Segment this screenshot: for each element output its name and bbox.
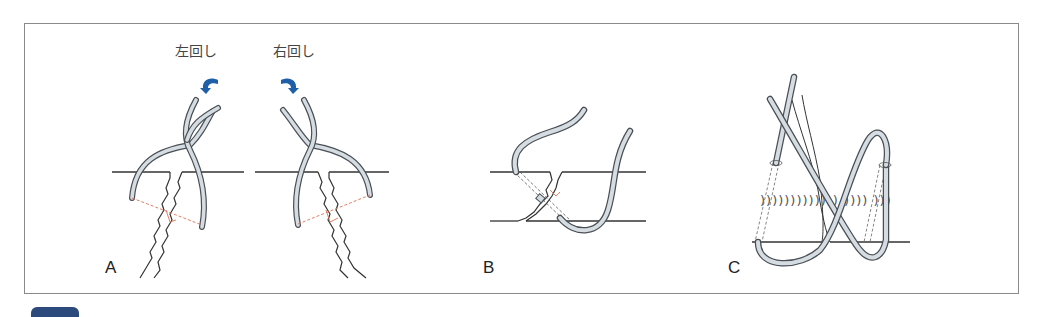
panel-b xyxy=(490,110,646,230)
right-rotation-label: 右回し xyxy=(273,40,315,60)
clockwise-rotation-arrow-icon xyxy=(281,78,299,94)
panel-label-a: A xyxy=(105,258,116,278)
panel-label-b: B xyxy=(483,258,494,278)
panel-label-c: C xyxy=(728,258,740,278)
caption-badge xyxy=(31,307,79,317)
panel-a-left-twist xyxy=(112,100,244,278)
panel-a-right-twist xyxy=(255,100,389,278)
counterclockwise-rotation-arrow-icon xyxy=(200,78,218,94)
left-rotation-label: 左回し xyxy=(175,40,217,60)
panel-c: ))))))))))))) )))) ))) xyxy=(752,77,910,263)
